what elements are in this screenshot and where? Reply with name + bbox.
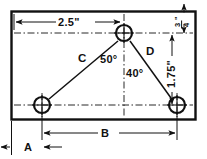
- dimension-1-75-inch: 1.75": [165, 35, 177, 104]
- leg-d-label: D: [146, 45, 154, 57]
- dimension-a-label: A: [24, 141, 32, 153]
- dimension-2-5-inch: 2.5": [14, 14, 120, 30]
- angle-40-label: 40°: [126, 67, 144, 79]
- fraction-three-quarter: 3 4 ": [173, 16, 191, 29]
- dimension-b: B: [42, 113, 177, 140]
- angle-50-label: 50°: [100, 53, 118, 65]
- dimension-three-quarter-inch: 3 4 ": [173, 4, 191, 33]
- dimension-b-label: B: [101, 127, 109, 139]
- dimension-2-5-label: 2.5": [58, 16, 80, 28]
- fraction-numerator: 3: [173, 23, 182, 27]
- technical-drawing-svg: 2.5" 3 4 " 1.75" 50° 40° C D: [0, 0, 207, 159]
- hole-bottom-right: [167, 95, 187, 115]
- fraction-denominator: 4: [182, 22, 191, 27]
- hole-bottom-left: [32, 95, 52, 115]
- hole-top: [114, 23, 134, 43]
- leg-c-line: [49, 41, 118, 99]
- leg-c-label: C: [78, 52, 86, 64]
- drawing-canvas: 2.5" 3 4 " 1.75" 50° 40° C D: [0, 0, 207, 159]
- dimension-a: A: [1, 121, 62, 155]
- fraction-unit: ": [173, 16, 182, 20]
- dimension-1-75-label: 1.75": [165, 60, 177, 88]
